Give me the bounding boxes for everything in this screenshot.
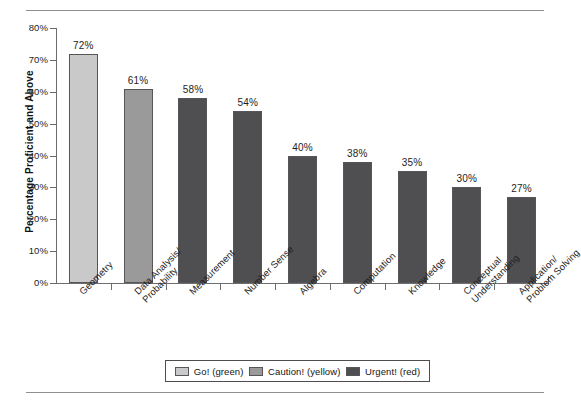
bar-value-label: 40%: [292, 142, 313, 153]
y-axis-tick-label: 20%: [6, 213, 48, 224]
bar: 35%: [398, 171, 427, 283]
y-axis-tick-label: 50%: [6, 118, 48, 129]
bar-value-label: 30%: [457, 173, 478, 184]
y-axis-tick-label: 0%: [6, 277, 48, 288]
page-rule-top: [26, 10, 544, 11]
y-axis-tick-labels: 80%70%60%50%40%30%20%10%0%: [0, 0, 48, 404]
bar-value-label: 58%: [183, 84, 204, 95]
bar-value-label: 27%: [511, 183, 532, 194]
legend-item-go: Go! (green): [175, 366, 244, 377]
chart-legend: Go! (green)Caution! (yellow)Urgent! (red…: [165, 360, 430, 382]
y-axis-tick-label: 40%: [6, 150, 48, 161]
legend-item-caution: Caution! (yellow): [249, 366, 340, 377]
x-axis-separator-tick: [275, 283, 276, 290]
x-axis-separator-tick: [166, 283, 167, 290]
legend-label: Go! (green): [194, 366, 244, 377]
bar-value-label: 72%: [73, 40, 94, 51]
bar-value-label: 54%: [237, 97, 258, 108]
bar: 40%: [288, 156, 317, 284]
bar: 72%: [69, 54, 98, 284]
x-axis-separator-tick: [220, 283, 221, 290]
bar: 27%: [507, 197, 536, 283]
bar: 61%: [124, 89, 153, 283]
y-axis-tick-label: 30%: [6, 181, 48, 192]
y-axis-tick-label: 70%: [6, 54, 48, 65]
legend-swatch-caution: [249, 367, 263, 376]
legend-swatch-go: [175, 367, 189, 376]
plot-area: 72%61%58%54%40%38%35%30%27%: [56, 28, 549, 283]
x-axis-separator-tick: [439, 283, 440, 290]
legend-item-urgent: Urgent! (red): [346, 366, 420, 377]
bar: 30%: [452, 187, 481, 283]
x-axis-separator-tick: [385, 283, 386, 290]
x-axis-separator-tick: [494, 283, 495, 290]
bar-value-label: 38%: [347, 148, 368, 159]
x-axis-separator-tick: [111, 283, 112, 290]
bar: 38%: [343, 162, 372, 283]
legend-label: Caution! (yellow): [268, 366, 340, 377]
y-axis-tick-label: 60%: [6, 86, 48, 97]
y-axis-tick-label: 80%: [6, 22, 48, 33]
bar-value-label: 35%: [402, 157, 423, 168]
legend-swatch-urgent: [346, 367, 360, 376]
page-rule-bottom: [26, 392, 544, 393]
bar-value-label: 61%: [128, 75, 149, 86]
legend-label: Urgent! (red): [365, 366, 420, 377]
y-axis-tick-label: 10%: [6, 245, 48, 256]
x-axis-separator-tick: [330, 283, 331, 290]
bar: 54%: [233, 111, 262, 283]
